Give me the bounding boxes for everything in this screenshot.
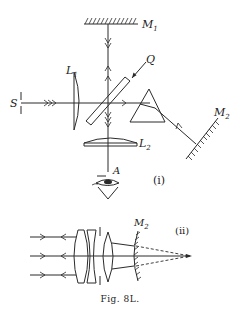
virtual-ray <box>136 256 190 266</box>
optics-figure: M1 S L1 Q <box>0 0 240 316</box>
arrow-icon <box>176 123 182 129</box>
lens-l1 <box>74 72 79 130</box>
label-a: A <box>112 165 120 176</box>
part-i-diagram: M1 S L1 Q <box>10 18 230 199</box>
label-l2: L2 <box>138 137 151 152</box>
lens-l2 <box>84 138 137 143</box>
ray-to-mirror <box>112 243 134 246</box>
label-q: Q <box>146 53 155 66</box>
label-s: S <box>10 97 18 110</box>
label-m2: M2 <box>213 106 230 121</box>
part-ii-diagram: M2 (ii) <box>30 217 192 285</box>
ray-to-mirror <box>112 266 134 269</box>
label-part-ii: (ii) <box>175 225 189 236</box>
label-part-i: (i) <box>153 174 165 187</box>
label-m2-ii: M2 <box>133 217 149 231</box>
label-m1: M1 <box>141 18 158 33</box>
eye-icon <box>92 180 119 200</box>
label-l1: L1 <box>65 64 78 79</box>
focus-point-icon <box>186 254 192 258</box>
figure-caption: Fig. 8L. <box>100 294 139 304</box>
mirror-m1 <box>84 18 138 24</box>
lens-ii-3 <box>103 232 113 282</box>
virtual-ray <box>136 246 190 256</box>
ray-to-m2 <box>140 104 196 144</box>
